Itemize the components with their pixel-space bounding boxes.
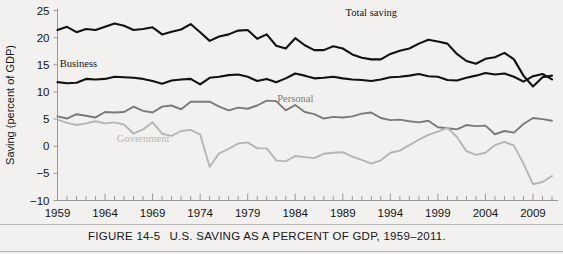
x-axis-tick-label: 1959	[45, 207, 71, 219]
series-label: Personal	[277, 93, 313, 104]
series-line	[58, 101, 553, 135]
y-axis-title-text: Saving (percent of GDP)	[4, 45, 16, 165]
x-axis-tick-label: 1999	[425, 207, 451, 219]
figure-caption-bar: FIGURE 14-5U.S. SAVING AS A PERCENT OF G…	[0, 224, 563, 254]
chart-series-group	[58, 24, 553, 185]
y-axis-tick-label: 5	[43, 113, 49, 125]
y-axis-tick-label: 0	[43, 140, 49, 152]
y-axis-title: Saving (percent of GDP)	[4, 45, 16, 165]
series-label: Total saving	[346, 7, 398, 18]
caption-rule-bottom	[0, 251, 563, 252]
figure-caption: FIGURE 14-5U.S. SAVING AS A PERCENT OF G…	[88, 230, 446, 242]
series-label: Government	[117, 133, 170, 144]
x-axis-tick-label: 1964	[92, 207, 118, 219]
y-axis-tick-label: 15	[37, 59, 50, 71]
x-axis-tick-label: 1979	[235, 207, 261, 219]
y-axis-tick-label: 20	[37, 32, 50, 44]
saving-line-chart: 2520151050−5−10 195919641969197419791984…	[0, 0, 563, 218]
y-axis: 2520151050−5−10	[30, 5, 58, 207]
x-axis-tick-label: 1984	[282, 207, 308, 219]
series-label: Business	[60, 58, 97, 69]
series-line	[58, 73, 553, 84]
y-axis-tick-label: 10	[37, 86, 50, 98]
x-axis-tick-label: 1994	[378, 207, 404, 219]
caption-rule-top	[0, 224, 563, 225]
x-axis-tick-label: 1989	[330, 207, 356, 219]
figure-number: FIGURE 14-5	[88, 230, 160, 242]
y-axis-tick-label: −5	[36, 167, 49, 179]
y-axis-tick-label: 25	[37, 5, 50, 17]
x-axis-tick-label: 2009	[520, 207, 546, 219]
figure-container: 2520151050−5−10 195919641969197419791984…	[0, 0, 563, 254]
x-axis-tick-label: 2004	[473, 207, 499, 219]
x-axis-tick-label: 1969	[140, 207, 166, 219]
y-axis-tick-label: −10	[30, 195, 50, 207]
x-axis: 1959196419691974197919841989199419992004…	[45, 194, 558, 219]
figure-title: U.S. SAVING AS A PERCENT OF GDP, 1959–20…	[169, 230, 445, 242]
chart-plot-area: 2520151050−5−10 195919641969197419791984…	[0, 0, 563, 218]
series-line	[58, 120, 553, 185]
x-axis-tick-label: 1974	[187, 207, 213, 219]
